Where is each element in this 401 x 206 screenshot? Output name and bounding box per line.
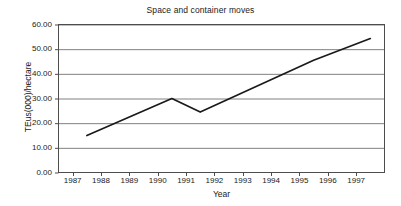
y-tick-marks-group	[55, 25, 59, 173]
x-axis-title: Year	[58, 189, 385, 199]
data-series-line	[87, 39, 370, 136]
chart-figure: Space and container moves 0.0010.0020.00…	[0, 0, 401, 206]
gridlines-group	[59, 25, 385, 148]
y-axis-title: TEus(000)/hectare	[23, 22, 33, 172]
x-tick-label: 1997	[336, 176, 376, 185]
